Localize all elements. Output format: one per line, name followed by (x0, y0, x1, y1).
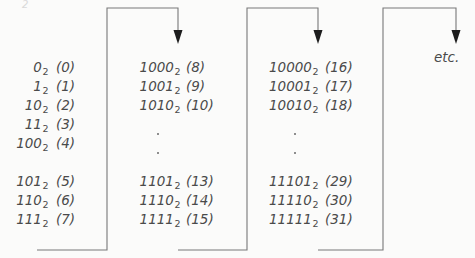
base-subscript: 2 (312, 85, 318, 96)
numeral-row: 100002(16) (0, 58, 475, 77)
base-subscript: 2 (312, 66, 318, 77)
decimal-value: (30) (325, 191, 353, 210)
numeral-row: 111112(31) (0, 210, 475, 229)
base-subscript: 2 (312, 218, 318, 229)
etc-label: etc. (434, 49, 459, 65)
binary-value: 100012 (269, 77, 318, 97)
base-subscript: 2 (312, 104, 318, 115)
base-subscript: 2 (42, 142, 48, 153)
binary-value: 112 (25, 115, 48, 135)
numeral-row: 112(3) (0, 115, 475, 134)
arrowhead-icon (174, 30, 183, 44)
vertical-ellipsis-dot (294, 152, 296, 154)
binary-value: 111012 (269, 172, 318, 192)
decimal-value: (29) (325, 172, 353, 191)
binary-value: 1002 (16, 134, 48, 154)
base-subscript: 2 (312, 199, 318, 210)
arrowhead-icon (314, 30, 323, 44)
decimal-value: (16) (325, 58, 353, 77)
binary-counting-diagram: 2 02(0)12(1)102(2)112(3)1002(4)1012(5)11… (0, 0, 475, 258)
vertical-ellipsis-dot (157, 152, 159, 154)
numeral-row: 100012(17) (0, 77, 475, 96)
binary-value: 111102 (269, 191, 318, 211)
binary-value: 111112 (269, 210, 318, 230)
numeral-row: 111012(29) (0, 172, 475, 191)
base-subscript: 2 (42, 123, 48, 134)
numeral-row: 1002(4) (0, 134, 475, 153)
vertical-ellipsis-dot (157, 133, 159, 135)
decimal-value: (17) (325, 77, 353, 96)
decimal-value: (4) (56, 134, 75, 153)
decimal-value: (18) (325, 96, 353, 115)
numeral-row: 100102(18) (0, 96, 475, 115)
decimal-value: (3) (56, 115, 75, 134)
binary-value: 100102 (269, 96, 318, 116)
binary-value: 100002 (269, 58, 318, 78)
base-subscript: 2 (312, 180, 318, 191)
vertical-ellipsis-dot (294, 133, 296, 135)
arrowhead-icon (452, 30, 461, 44)
decimal-value: (31) (325, 210, 353, 229)
numeral-row: 111102(30) (0, 191, 475, 210)
